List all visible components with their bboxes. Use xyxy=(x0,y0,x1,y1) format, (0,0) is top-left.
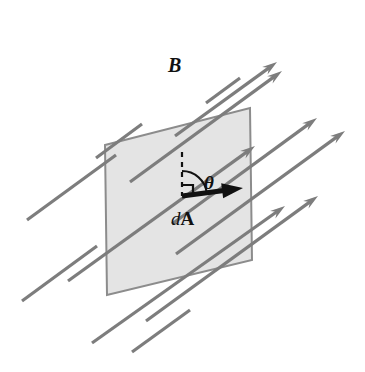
area-vector-label-dA: dA xyxy=(171,208,195,229)
magnetic-field-line xyxy=(27,155,116,220)
field-line-shaft xyxy=(22,246,97,301)
flux-diagram-canvas: B θ dA xyxy=(0,0,365,372)
area-label-A: A xyxy=(181,208,195,229)
magnetic-field-line xyxy=(22,246,97,301)
area-label-d: d xyxy=(171,208,181,229)
angle-label-theta: θ xyxy=(204,172,214,193)
field-line-shaft xyxy=(27,155,116,220)
magnetic-field-line xyxy=(132,310,190,352)
field-line-shaft xyxy=(132,310,190,352)
field-label-B: B xyxy=(167,54,181,76)
magnetic-flux-figure: B θ dA xyxy=(0,0,365,372)
